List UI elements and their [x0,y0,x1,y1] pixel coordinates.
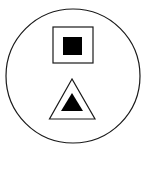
symbol-figure [0,0,144,188]
outer-circle [6,9,140,143]
square-fill [63,37,82,55]
triangle-icon [50,79,96,119]
triangle-fill [61,93,83,111]
square-icon [53,27,93,63]
